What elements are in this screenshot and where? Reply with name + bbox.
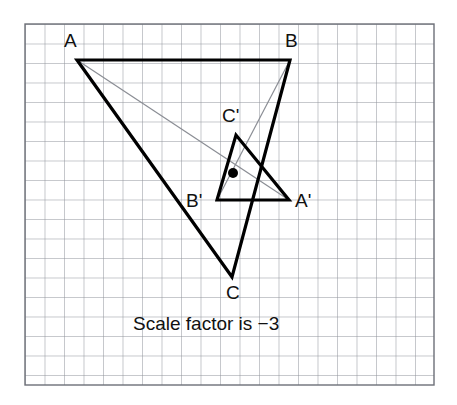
- figure-canvas: A B C A' B' C' Scale factor is −3: [0, 0, 457, 405]
- center-of-enlargement-dot: [228, 168, 238, 178]
- vertex-label-A: A: [64, 30, 77, 51]
- vertex-label-A-prime: A': [295, 190, 311, 211]
- vertex-label-C: C: [226, 282, 240, 303]
- vertex-label-B: B: [285, 30, 298, 51]
- vertex-label-C-prime: C': [222, 105, 239, 126]
- scale-factor-caption: Scale factor is −3: [133, 313, 279, 334]
- vertex-label-B-prime: B': [186, 190, 202, 211]
- geometry-figure: A B C A' B' C' Scale factor is −3: [0, 0, 457, 405]
